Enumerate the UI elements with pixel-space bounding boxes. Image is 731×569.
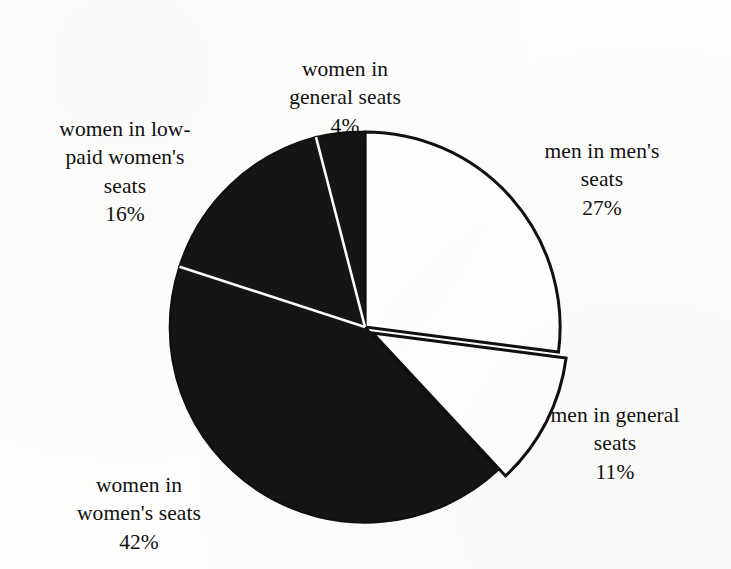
slice-label-text: women in general seats bbox=[289, 57, 401, 110]
slice-label-text: men in general seats bbox=[550, 403, 679, 456]
pie-chart-figure: women in general seats 4% women in low- … bbox=[0, 0, 731, 569]
slice-label-text: men in men's seats bbox=[545, 139, 660, 192]
slice-label-men-general-seats: men in general seats 11% bbox=[512, 372, 718, 515]
slice-label-text: women in women's seats bbox=[77, 473, 201, 526]
slice-label-women-general-seats: women in general seats 4% bbox=[240, 26, 450, 169]
slice-label-percent: 4% bbox=[240, 112, 450, 141]
slice-label-men-mens-seats: men in men's seats 27% bbox=[500, 108, 704, 251]
slice-label-percent: 27% bbox=[500, 194, 704, 223]
slice-label-percent: 11% bbox=[512, 458, 718, 487]
slice-label-text: women in low- paid women's seats bbox=[59, 117, 190, 198]
slice-label-women-womens-seats: women in women's seats 42% bbox=[20, 442, 258, 569]
slice-label-percent: 42% bbox=[20, 528, 258, 557]
slice-label-women-low-paid-womens-seats: women in low- paid women's seats 16% bbox=[12, 86, 238, 258]
slice-label-percent: 16% bbox=[12, 200, 238, 229]
